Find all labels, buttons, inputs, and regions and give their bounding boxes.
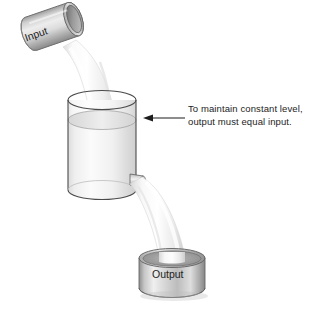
- annotation-text: To maintain constant level, output must …: [188, 103, 310, 128]
- output-stream: [130, 177, 185, 258]
- diagram-canvas: To maintain constant level, output must …: [0, 0, 313, 315]
- output-vessel-label: Output: [152, 268, 184, 280]
- tank-liquid-body: [68, 120, 136, 200]
- annotation-arrow-head-icon: [143, 114, 153, 121]
- tank-liquid-surface: [68, 111, 136, 130]
- annotation-line-1: To maintain constant level,: [188, 103, 310, 116]
- output-vessel-shadow: [140, 291, 208, 301]
- annotation-line-2: output must equal input.: [188, 116, 310, 129]
- annotation-leader: [143, 114, 185, 121]
- output-stream-entry: [159, 252, 185, 264]
